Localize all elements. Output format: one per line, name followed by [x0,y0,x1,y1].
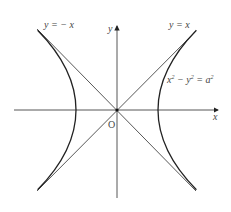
x-axis-label: x [213,112,217,122]
origin-point [115,108,118,111]
y-axis-label: y [108,24,112,34]
asymptote-label-neg: y = − x [44,20,74,30]
origin-label: O [108,120,115,130]
eq-y: − y [174,74,190,85]
hyperbola-diagram [0,0,231,212]
eq-exp-3: 2 [210,74,213,80]
asymptote-label-pos: y = x [169,20,190,30]
equation-label: x2 − y2 = a2 [167,74,213,85]
eq-a: = a [194,74,211,85]
